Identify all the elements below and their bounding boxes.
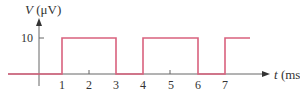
x-tick-label-2: 2 (86, 78, 92, 92)
x-tick-label-5: 5 (168, 78, 174, 92)
x-axis-arrow-icon (262, 71, 270, 77)
signal-waveform (8, 38, 250, 74)
y-tick-label-10: 10 (21, 31, 33, 45)
x-tick-label-3: 3 (113, 78, 119, 92)
x-tick-label-6: 6 (195, 78, 201, 92)
y-axis-arrow-icon (36, 18, 42, 26)
y-axis-label: V (μV) (25, 2, 61, 17)
x-tick-label-1: 1 (59, 78, 65, 92)
x-axis-unit: (ms) (278, 67, 300, 82)
x-tick-label-7: 7 (222, 78, 228, 92)
x-axis-label: t (ms) (274, 67, 300, 82)
voltage-pulse-chart: 10 1 2 3 4 5 6 7 V (μV) t (ms) (0, 0, 300, 97)
x-tick-label-4: 4 (140, 78, 146, 92)
y-axis-unit: (μV) (33, 2, 61, 17)
